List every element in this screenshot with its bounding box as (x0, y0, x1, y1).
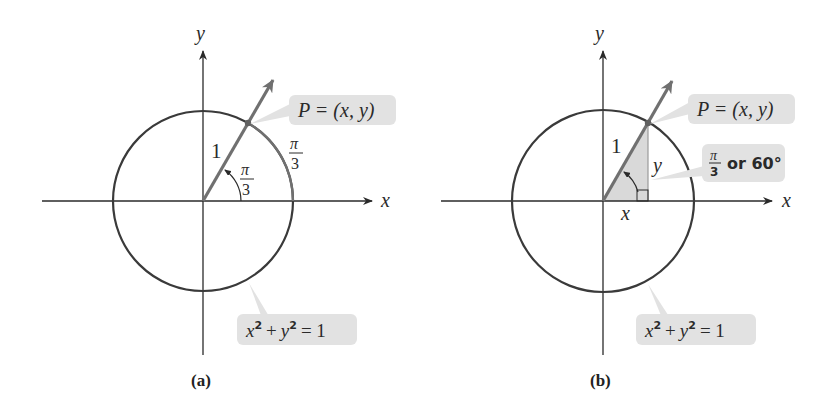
angle-numerator: π (241, 161, 250, 178)
angle-denominator: 3 (242, 181, 250, 198)
panel-a: x y 1 π 3 π 3 P = (x, y) x2+y2= 1 (a) (42, 22, 396, 390)
leg-y-label: y (651, 154, 662, 177)
y-axis-label: y (194, 22, 205, 45)
callout-pointer-p (650, 102, 690, 124)
y-axis-label: y (593, 22, 604, 45)
angle-degree-text: or 60° (727, 154, 782, 173)
angle-arc-icon (225, 170, 241, 201)
unit-circle-figure: x y 1 π 3 π 3 P = (x, y) x2+y2= 1 (a) (0, 0, 823, 418)
arc-numerator: π (290, 135, 299, 152)
caption-b: (b) (590, 371, 611, 390)
point-p (645, 120, 651, 126)
angle-denominator: 3 (710, 165, 718, 179)
radius-label: 1 (611, 134, 622, 158)
leg-x-label: x (620, 202, 630, 224)
caption-a: (a) (191, 371, 211, 390)
point-p (245, 120, 251, 126)
callout-pointer-eq (249, 283, 270, 318)
point-p-label: P = (x, y) (297, 99, 375, 122)
x-axis-label: x (380, 189, 390, 211)
angle-numerator: π (710, 148, 718, 163)
radius-label: 1 (211, 139, 222, 163)
arc-denominator: 3 (291, 155, 299, 172)
point-p-label: P = (x, y) (696, 98, 774, 121)
panel-b: x y 1 y x P = (x, y) π 3 or 60° x2+y2= 1… (441, 22, 795, 390)
x-axis-label: x (781, 189, 791, 211)
callout-pointer-eq (648, 284, 670, 318)
arc-pi-over-3 (248, 123, 293, 201)
